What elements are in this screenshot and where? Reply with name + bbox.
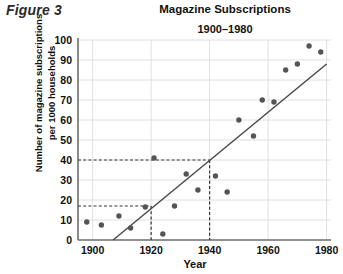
data-point: [172, 203, 177, 208]
data-point: [236, 117, 241, 122]
data-point: [306, 43, 311, 48]
data-point: [224, 189, 229, 194]
data-point: [184, 171, 189, 176]
data-point: [271, 99, 276, 104]
grid-lines: [78, 40, 331, 240]
data-point: [143, 204, 148, 209]
data-point: [116, 213, 121, 218]
data-point: [84, 219, 89, 224]
data-point: [251, 133, 256, 138]
data-point: [151, 155, 156, 160]
trend-line: [113, 64, 327, 240]
data-point: [260, 97, 265, 102]
data-point: [283, 67, 288, 72]
data-point: [318, 49, 323, 54]
data-point: [99, 222, 104, 227]
axes: [78, 38, 331, 240]
data-point: [160, 231, 165, 236]
data-point: [128, 225, 133, 230]
data-point: [295, 61, 300, 66]
data-point: [195, 187, 200, 192]
data-point: [213, 173, 218, 178]
